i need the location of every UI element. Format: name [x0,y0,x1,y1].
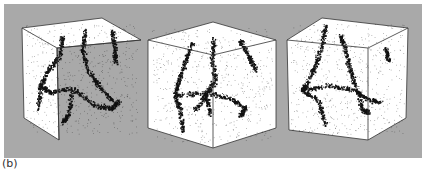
cube-2 [148,22,276,148]
cube-1 [22,18,141,140]
cube-figure [0,0,426,174]
cube-3 [287,18,408,140]
panel-label: (b) [2,157,18,170]
